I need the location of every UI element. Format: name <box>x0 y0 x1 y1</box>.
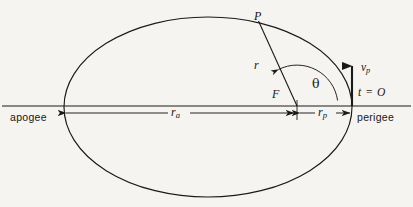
perigee-label: perigee <box>357 112 394 123</box>
ra-subscript: a <box>176 110 180 120</box>
vp-subscript: p <box>366 66 370 75</box>
rp-label: rp <box>318 106 327 120</box>
radius-r-label: r <box>254 59 259 71</box>
focus-F-label: F <box>272 88 279 100</box>
theta-angle-arc <box>279 65 338 100</box>
diagram-canvas <box>0 0 413 207</box>
apogee-label: apogee <box>10 112 47 123</box>
orbit-diagram-figure: P r F θ vp t = O ra rp apogee perigee <box>0 0 413 207</box>
orbit-ellipse <box>64 17 352 197</box>
rp-subscript: p <box>323 110 327 120</box>
point-P-label: P <box>254 10 261 22</box>
true-anomaly-theta-label: θ <box>312 78 320 91</box>
time-zero-label: t = O <box>358 87 386 99</box>
perigee-velocity-label: vp <box>361 62 370 76</box>
ra-label: ra <box>171 106 180 120</box>
